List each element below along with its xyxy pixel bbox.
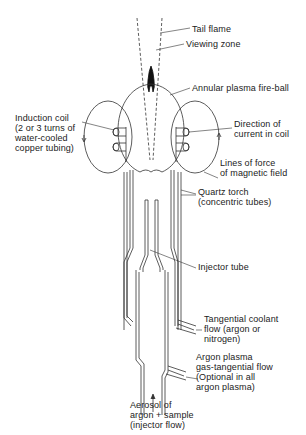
label-injector-tube: Injector tube: [198, 262, 249, 272]
label-aerosol: Aerosol of argon + sample (injector flow…: [130, 400, 194, 430]
label-coolant-flow: Tangential coolant flow (argon or nitrog…: [204, 314, 278, 344]
label-plasma-gas: Argon plasma gas-tangential flow (Option…: [196, 352, 273, 392]
label-magnetic-field: Lines of force of magnetic field: [220, 158, 287, 178]
field-arrow-left: [82, 135, 86, 142]
magnetic-field-right: [171, 101, 219, 173]
label-induction-coil: Induction coil (2 or 3 turns of water-co…: [15, 113, 75, 153]
tail-flame-shape: [148, 66, 155, 92]
field-arrow-right: [217, 133, 221, 140]
label-tail-flame: Tail flame: [192, 24, 231, 34]
label-current-direction: Direction of current in coil: [234, 119, 289, 139]
label-fireball: Annular plasma fire-ball: [192, 83, 289, 93]
fireball-outline: [118, 84, 184, 172]
plasma-gas-inlet: [166, 366, 186, 380]
label-viewing-zone: Viewing zone: [186, 39, 241, 49]
label-quartz-torch: Quartz torch (concentric tubes): [198, 187, 271, 207]
intermediate-tube: [124, 170, 178, 326]
coolant-inlet: [176, 320, 196, 334]
magnetic-field-left: [84, 101, 132, 173]
injector-tube-shape: [140, 200, 163, 272]
plasma-tube: [136, 270, 168, 415]
